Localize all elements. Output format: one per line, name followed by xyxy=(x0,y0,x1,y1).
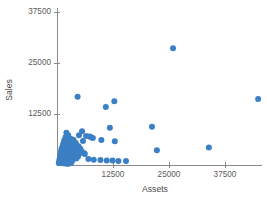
data-point xyxy=(91,157,97,163)
data-point xyxy=(97,157,103,163)
x-axis: 12500250003750050000 xyxy=(57,162,267,179)
x-tick-label: 12500 xyxy=(102,170,125,179)
data-point xyxy=(112,138,118,144)
x-axis-title: Assets xyxy=(142,184,168,194)
data-point xyxy=(110,158,116,164)
data-point xyxy=(107,125,113,131)
y-tick-label: 12500 xyxy=(28,109,51,118)
data-point xyxy=(149,124,155,130)
data-point xyxy=(123,158,129,164)
data-point xyxy=(90,135,96,141)
y-axis-title: Sales xyxy=(4,79,14,101)
data-point xyxy=(255,96,261,102)
data-point xyxy=(80,138,86,144)
x-tick-label: 25000 xyxy=(158,170,181,179)
data-point xyxy=(66,161,72,167)
data-point xyxy=(170,45,176,51)
plot-canvas: 12500250003750050000 1250025000375005000… xyxy=(0,0,267,201)
data-point xyxy=(81,150,87,156)
data-point xyxy=(115,158,121,164)
data-point xyxy=(206,144,212,150)
data-point xyxy=(85,156,91,162)
data-points-layer xyxy=(56,0,267,167)
data-point xyxy=(103,104,109,110)
y-tick-label: 25000 xyxy=(28,58,51,67)
y-tick-label: 37500 xyxy=(28,7,51,16)
scatter-plot-figure: 12500250003750050000 1250025000375005000… xyxy=(0,0,267,201)
data-point xyxy=(111,98,117,104)
data-point xyxy=(75,94,81,100)
data-point xyxy=(98,137,104,143)
data-point xyxy=(76,132,82,138)
data-point xyxy=(104,158,110,164)
x-tick-label: 37500 xyxy=(214,170,237,179)
y-axis: 12500250003750050000 xyxy=(28,0,60,165)
data-point xyxy=(154,147,160,153)
